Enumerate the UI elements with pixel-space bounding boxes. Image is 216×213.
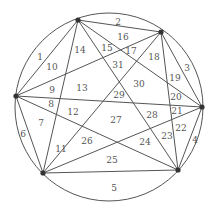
region-label-30: 30 bbox=[133, 79, 145, 89]
region-label-21: 21 bbox=[171, 106, 182, 116]
region-label-12: 12 bbox=[67, 107, 78, 117]
region-label-2: 2 bbox=[115, 17, 121, 27]
chord-P4-P5 bbox=[43, 107, 202, 173]
region-label-17: 17 bbox=[125, 46, 137, 56]
vertex-P3 bbox=[13, 93, 18, 98]
region-label-3: 3 bbox=[184, 63, 190, 73]
region-label-5: 5 bbox=[111, 183, 117, 193]
region-label-9: 9 bbox=[49, 85, 55, 95]
region-label-20: 20 bbox=[170, 92, 182, 102]
region-label-24: 24 bbox=[139, 137, 151, 147]
region-label-7: 7 bbox=[38, 118, 44, 128]
region-label-1: 1 bbox=[37, 52, 43, 62]
region-label-29: 29 bbox=[113, 90, 125, 100]
chord-P1-P3 bbox=[16, 20, 78, 96]
region-label-8: 8 bbox=[48, 99, 54, 109]
vertex-P4 bbox=[199, 104, 204, 109]
region-label-6: 6 bbox=[20, 129, 26, 139]
diagram-canvas: 1234567891011121314151617181920212223242… bbox=[0, 0, 216, 213]
chord-P4-P6 bbox=[178, 107, 202, 170]
region-label-28: 28 bbox=[146, 110, 158, 120]
vertex-P2 bbox=[158, 29, 163, 34]
region-label-18: 18 bbox=[148, 52, 160, 62]
vertex-P5 bbox=[40, 170, 45, 175]
region-label-19: 19 bbox=[169, 73, 181, 83]
region-label-31: 31 bbox=[112, 60, 123, 70]
vertex-P6 bbox=[175, 167, 180, 172]
circle-graph-diagram: 1234567891011121314151617181920212223242… bbox=[0, 0, 216, 213]
region-label-13: 13 bbox=[76, 83, 88, 93]
region-label-11: 11 bbox=[55, 144, 66, 154]
region-label-27: 27 bbox=[110, 115, 122, 125]
region-labels: 1234567891011121314151617181920212223242… bbox=[20, 17, 198, 193]
region-label-10: 10 bbox=[46, 62, 58, 72]
region-label-16: 16 bbox=[117, 32, 129, 42]
region-label-22: 22 bbox=[175, 123, 186, 133]
chord-P5-P6 bbox=[43, 170, 178, 173]
region-label-25: 25 bbox=[106, 155, 118, 165]
region-label-4: 4 bbox=[192, 135, 198, 145]
vertex-P1 bbox=[75, 17, 80, 22]
region-label-14: 14 bbox=[74, 45, 86, 55]
region-label-15: 15 bbox=[101, 43, 113, 53]
region-label-26: 26 bbox=[81, 136, 93, 146]
region-label-23: 23 bbox=[161, 131, 173, 141]
